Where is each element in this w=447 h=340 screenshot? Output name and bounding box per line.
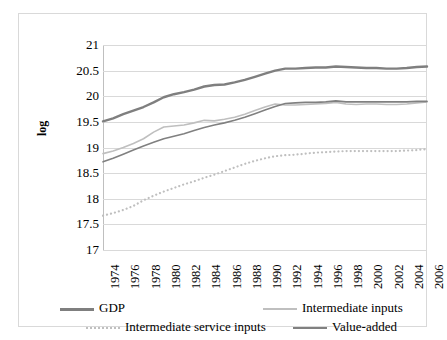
legend-label: Intermediate service inputs [125, 320, 266, 334]
chart-frame: log 2120.52019.51918.51817.517 197419761… [18, 13, 427, 327]
legend-item[interactable]: GDP [60, 299, 125, 317]
y-axis-tick-label: 21 [53, 38, 99, 51]
x-axis-tick-label: 1992 [290, 265, 305, 289]
x-axis-tick-label: 2004 [412, 265, 427, 289]
y-axis-tick-label: 20.5 [53, 64, 99, 77]
legend-row: GDPIntermediate inputs [38, 299, 445, 317]
y-axis-tick-label: 19.5 [53, 115, 99, 128]
legend-swatch-icon [293, 321, 327, 333]
legend-label: GDP [99, 301, 125, 315]
legend-item[interactable]: Intermediate service inputs [86, 318, 266, 336]
y-axis-tick-label: 17.5 [53, 217, 99, 230]
x-axis-tick-label: 1988 [250, 265, 265, 289]
y-axis-title: log [35, 121, 50, 136]
chart-legend: GDPIntermediate inputs Intermediate serv… [38, 299, 445, 339]
x-axis-tick-label: 2006 [432, 265, 447, 289]
x-axis-tick-label: 1990 [270, 265, 285, 289]
y-axis-tick-label: 18.5 [53, 166, 99, 179]
x-axis-tick-label: 1996 [331, 265, 346, 289]
y-axis-tick-labels: 2120.52019.51918.51817.517 [49, 45, 99, 250]
x-axis-tick-label: 2002 [392, 265, 407, 289]
plot-area [103, 45, 427, 250]
x-axis-tick-label: 1974 [108, 265, 123, 289]
y-axis-tick-label: 18 [53, 192, 99, 205]
y-axis-tick-label: 17 [53, 243, 99, 256]
legend-item[interactable]: Intermediate inputs [263, 299, 403, 317]
legend-swatch-icon [86, 321, 120, 333]
series-line [103, 101, 427, 162]
data-series-layer [103, 45, 427, 250]
x-axis-tick-label: 1986 [230, 265, 245, 289]
series-line [103, 149, 427, 216]
gridline [103, 250, 427, 251]
legend-row: Intermediate service inputsValue-added [38, 318, 445, 336]
y-axis-tick-label: 20 [53, 89, 99, 102]
series-line [103, 67, 427, 122]
legend-swatch-icon [60, 302, 94, 314]
x-axis-tick-label: 1980 [169, 265, 184, 289]
x-axis-tick-label: 2000 [371, 265, 386, 289]
legend-item[interactable]: Value-added [293, 318, 397, 336]
legend-label: Value-added [332, 320, 397, 334]
x-axis-tick-label: 1984 [209, 265, 224, 289]
x-axis-tick-label: 1982 [189, 265, 204, 289]
x-axis-tick-label: 1998 [351, 265, 366, 289]
x-axis-tick-label: 1976 [128, 265, 143, 289]
x-axis-tick-label: 1994 [311, 265, 326, 289]
y-axis-tick-label: 19 [53, 141, 99, 154]
x-axis-tick-label: 1978 [149, 265, 164, 289]
x-axis-tick-labels: 1974197619781980198219841986198819901992… [103, 253, 427, 297]
legend-label: Intermediate inputs [302, 301, 403, 315]
legend-swatch-icon [263, 302, 297, 314]
